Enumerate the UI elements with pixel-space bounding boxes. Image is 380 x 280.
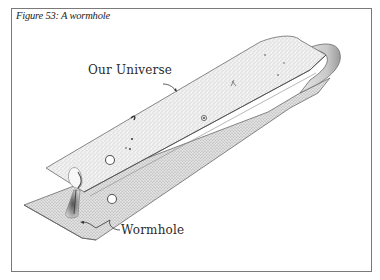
wormhole-illustration [0,0,380,280]
star-icon [106,156,115,165]
wormhole-label: Wormhole [121,223,184,237]
universe-label: Our Universe [88,63,172,77]
star-icon [108,195,117,204]
